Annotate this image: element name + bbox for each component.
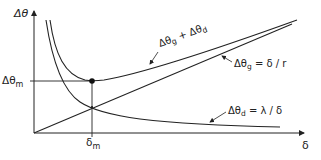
sum-curve: [50, 20, 297, 81]
diagram-canvas: Δθ δ Δθm δm Δθg + Δθd Δθg = δ / r Δθd = …: [0, 0, 321, 160]
linear-leader-arrow: [222, 56, 232, 62]
min-y-label: Δθm: [2, 74, 24, 89]
sum-leader-arrow: [150, 52, 158, 64]
sum-curve-label: Δθg + Δθd: [157, 21, 209, 50]
x-axis-label: δ: [302, 139, 309, 152]
intersection-point: [91, 106, 93, 108]
linear-curve-label: Δθg = δ / r: [234, 58, 287, 71]
inverse-leader-arrow: [210, 112, 226, 122]
y-axis-label: Δθ: [13, 7, 29, 20]
min-x-label: δm: [86, 136, 100, 151]
inverse-curve-label: Δθd = λ / δ: [228, 105, 282, 118]
minimum-point: [89, 78, 95, 84]
